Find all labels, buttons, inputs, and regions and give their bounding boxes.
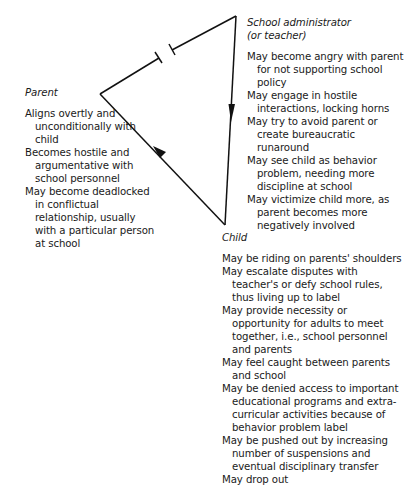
school-title: School administrator (or teacher): [247, 16, 405, 42]
list-item: May be denied access to important educat…: [222, 382, 405, 434]
list-item: May be pushed out by increasing number o…: [222, 434, 405, 473]
list-item: May victimize child more, as parent beco…: [247, 193, 405, 232]
list-item: Becomes hostile and argumentative with s…: [25, 146, 155, 185]
break-bar-icon: [155, 52, 162, 63]
list-item: May become deadlocked in conflictual rel…: [25, 185, 155, 250]
list-item: May feel caught between parents and scho…: [222, 356, 405, 382]
child-title: Child: [222, 231, 405, 244]
school-items: May become angry with parent for not sup…: [247, 50, 405, 232]
child-items: May be riding on parents' shoulders May …: [222, 252, 405, 486]
list-item: May see child as behavior problem, needi…: [247, 154, 405, 193]
parent-items: Aligns overtly and unconditionally with …: [25, 107, 155, 250]
list-item: May try to avoid parent or create bureau…: [247, 115, 405, 154]
list-item: May escalate disputes with teacher's or …: [222, 265, 405, 304]
list-item: May drop out: [222, 473, 405, 486]
list-item: May provide necessity or opportunity for…: [222, 304, 405, 356]
parent-node: Parent Aligns overtly and unconditionall…: [25, 86, 155, 260]
school-node: School administrator (or teacher) May be…: [247, 16, 405, 242]
list-item: May be riding on parents' shoulders: [222, 252, 405, 265]
edge-parent-school: [100, 16, 236, 94]
list-item: May engage in hostile interactions, lock…: [247, 89, 405, 115]
list-item: May become angry with parent for not sup…: [247, 50, 405, 89]
arrow-down-icon: [229, 104, 236, 122]
child-node: Child May be riding on parents' shoulder…: [222, 231, 405, 488]
edge-school-child: [225, 16, 236, 225]
parent-title: Parent: [25, 86, 155, 99]
list-item: Aligns overtly and unconditionally with …: [25, 107, 155, 146]
